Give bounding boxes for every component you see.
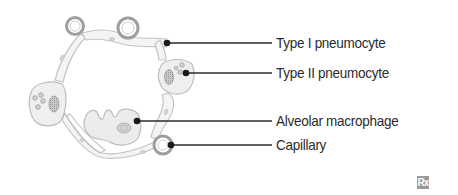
- type-ii-pneumocyte-left: [29, 82, 66, 126]
- type-i-pneumocyte-right-lower: [151, 93, 174, 140]
- label-alveolar-macrophage: Alveolar macrophage: [276, 112, 398, 130]
- label-capillary: Capillary: [276, 136, 326, 154]
- type-ii-pneumocyte-right: [158, 60, 194, 95]
- type-i-pneumocyte-upper-left: [55, 34, 86, 82]
- alveolus-diagram: [0, 0, 458, 195]
- label-type-ii-pneumocyte: Type II pneumocyte: [276, 64, 389, 82]
- label-type-i-pneumocyte: Type I pneumocyte: [276, 34, 385, 52]
- rx-logo-icon: Rx: [417, 176, 429, 189]
